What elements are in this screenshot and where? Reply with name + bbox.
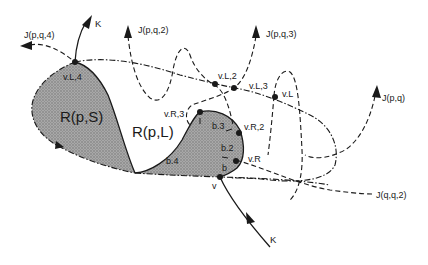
arrowhead-J-pq4: [20, 41, 32, 50]
label-vR: v.R: [248, 154, 261, 164]
label-J-qq2: J(q,q,2): [376, 190, 407, 200]
label-J-pq: J(p,q): [382, 93, 405, 103]
vertex-vR2: [236, 130, 242, 136]
curve-vL-down: [268, 96, 274, 155]
label-vL2: v.L,2: [218, 71, 237, 81]
label-vL3: v.L,3: [249, 81, 268, 91]
label-R-pL: R(p,L): [132, 123, 174, 140]
label-v: v: [212, 181, 217, 191]
topology-diagram: R(p,S) R(p,L) K K J(p,q,4) J(p,q,2) J(p,…: [0, 0, 428, 265]
vertex-vR3: [197, 109, 203, 115]
label-b4: b.4: [166, 156, 179, 166]
label-vR2: v.R,2: [244, 122, 264, 132]
label-b: b: [222, 163, 227, 173]
vertex-v: [217, 174, 223, 180]
label-R-pS: R(p,S): [60, 108, 103, 125]
vertex-vR: [233, 158, 239, 164]
label-b2: b.2: [221, 143, 234, 153]
vertex-vL: [272, 94, 278, 100]
vertex-vL4: [72, 59, 78, 65]
diagram-canvas: R(p,S) R(p,L) K K J(p,q,4) J(p,q,2) J(p,…: [0, 0, 428, 265]
label-vR3: v.R,3: [164, 109, 184, 119]
curve-J-pq4: [30, 44, 75, 62]
curve-K-bottom: [220, 177, 270, 247]
curve-J-qq2: [236, 160, 372, 194]
vertex-vL2: [212, 81, 218, 87]
label-J-pq4: J(p,q,4): [24, 30, 55, 40]
arrowhead-K-bottom: [246, 212, 255, 224]
label-J-pq2: J(p,q,2): [138, 25, 169, 35]
arrowhead-J-pq2: [124, 25, 132, 38]
label-b3: b.3: [212, 121, 225, 131]
label-vL4: v.L,4: [63, 72, 82, 82]
arrowhead-J-pq3: [252, 25, 260, 38]
label-K-bottom: K: [270, 234, 277, 245]
label-K-top: K: [95, 18, 102, 29]
vertex-vL3: [231, 85, 237, 91]
curve-J-pq: [305, 96, 375, 158]
label-vL: v.L: [282, 89, 293, 99]
arrowhead-J-pq: [372, 85, 381, 98]
curve-K-top: [75, 22, 86, 62]
label-J-pq3: J(p,q,3): [266, 29, 297, 39]
